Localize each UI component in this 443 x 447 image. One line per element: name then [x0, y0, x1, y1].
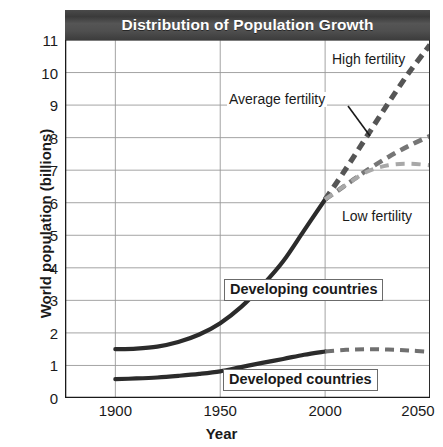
y-tick-label: 10: [24, 66, 58, 81]
y-tick-label: 2: [24, 326, 58, 341]
x-axis-title: Year: [0, 425, 443, 442]
y-tick-label: 4: [24, 261, 58, 276]
x-tick-label: 2000: [308, 403, 341, 418]
annotation-low-fertility: Low fertility: [340, 209, 414, 224]
annotation-average-fertility: Average fertility: [227, 92, 327, 107]
y-tick-label: 1: [24, 358, 58, 373]
x-tick-label: 2050: [401, 403, 434, 418]
x-axis-tick-labels: 1900195020002050: [0, 403, 443, 427]
annotation-developed-countries: Developed countries: [223, 369, 378, 391]
y-tick-label: 11: [24, 33, 58, 48]
y-tick-label: 3: [24, 293, 58, 308]
x-tick-label: 1900: [99, 403, 132, 418]
annotation-high-fertility: High fertility: [330, 52, 407, 67]
population-growth-chart: Distribution of Population Growth World …: [0, 0, 443, 447]
y-tick-label: 9: [24, 98, 58, 113]
y-tick-label: 8: [24, 131, 58, 146]
chart-title-bar: Distribution of Population Growth: [65, 10, 430, 40]
annotation-developing-countries: Developing countries: [224, 279, 383, 301]
y-tick-label: 7: [24, 163, 58, 178]
x-tick-label: 1950: [204, 403, 237, 418]
y-axis-tick-labels: 11109876543210: [22, 0, 58, 447]
y-tick-label: 6: [24, 196, 58, 211]
chart-title: Distribution of Population Growth: [121, 16, 373, 34]
y-tick-label: 5: [24, 228, 58, 243]
